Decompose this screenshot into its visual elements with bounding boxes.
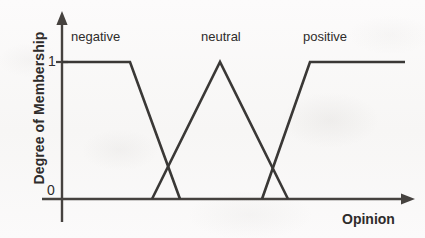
y-tick-label-0: 0 — [47, 182, 55, 198]
y-axis-label: Degree of Membership — [31, 13, 47, 203]
fuzzy-membership-figure: Degree of Membership Opinion 1 0 negativ… — [0, 0, 425, 238]
membership-curve-positive — [262, 62, 405, 199]
x-axis — [42, 193, 415, 204]
y-axis — [56, 11, 67, 222]
set-label-negative: negative — [71, 29, 120, 44]
x-axis-arrowhead-icon — [401, 193, 415, 204]
set-label-neutral: neutral — [201, 29, 241, 44]
y-axis-arrowhead-icon — [56, 11, 67, 25]
set-label-positive: positive — [303, 29, 347, 44]
y-tick-label-1: 1 — [48, 53, 56, 69]
x-axis-label: Opinion — [342, 211, 395, 227]
